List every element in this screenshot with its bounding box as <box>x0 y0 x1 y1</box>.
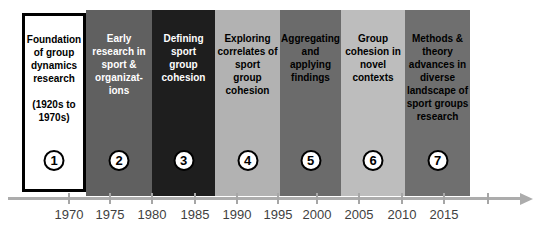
phase-number-badge: 1 <box>44 150 65 171</box>
axis-tick <box>277 193 279 204</box>
axis-tick <box>401 193 403 204</box>
phase-block-1: Foundation of group dynamics research (1… <box>22 13 86 192</box>
phase-number-badge: 5 <box>300 150 321 171</box>
axis-tick <box>487 193 489 204</box>
axis-tick <box>68 193 70 204</box>
axis-tick <box>109 193 111 204</box>
axis-tick <box>316 193 318 204</box>
phase-block-6: Group cohesion in novel contexts 6 <box>341 10 405 196</box>
axis-tick <box>443 193 445 204</box>
axis-tick <box>236 193 238 204</box>
axis-year-label: 1975 <box>88 207 132 222</box>
phase-number-badge: 3 <box>173 150 194 171</box>
phase-number-badge: 4 <box>237 150 258 171</box>
axis-tick <box>194 193 196 204</box>
phase-label: Exploring correlates of sport group cohe… <box>215 32 280 97</box>
axis-tick <box>358 193 360 204</box>
axis-year-label: 2005 <box>337 207 381 222</box>
phase-label: Foundation of group dynamics research (1… <box>25 33 83 124</box>
axis-year-label: 2015 <box>422 207 466 222</box>
phase-label: Early research in sport & organizat- ion… <box>86 32 152 97</box>
phase-label: Aggregating and applying findings <box>280 32 341 84</box>
phase-block-2: Early research in sport & organizat- ion… <box>86 10 152 196</box>
phase-number-badge: 7 <box>427 150 448 171</box>
axis-year-label: 2010 <box>380 207 424 222</box>
axis-year-label: 2000 <box>295 207 339 222</box>
axis-year-label: 1995 <box>256 207 300 222</box>
phase-block-4: Exploring correlates of sport group cohe… <box>215 10 280 196</box>
axis-year-label: 1985 <box>173 207 217 222</box>
timeline-diagram: Foundation of group dynamics research (1… <box>0 0 547 234</box>
axis-year-label: 1990 <box>215 207 259 222</box>
axis-year-label: 1970 <box>47 207 91 222</box>
phase-block-7: Methods & theory advances in diverse lan… <box>405 10 470 196</box>
phase-label: Methods & theory advances in diverse lan… <box>405 32 470 123</box>
axis-year-label: 1980 <box>130 207 174 222</box>
phase-label: Defining sport group cohesion <box>152 32 215 84</box>
phase-number-badge: 6 <box>363 150 384 171</box>
phase-block-3: Defining sport group cohesion 3 <box>152 10 215 196</box>
phase-block-5: Aggregating and applying findings 5 <box>280 10 341 196</box>
phase-label: Group cohesion in novel contexts <box>341 32 405 84</box>
phase-number-badge: 2 <box>109 150 130 171</box>
axis-tick <box>151 193 153 204</box>
axis-arrowhead-icon <box>520 193 533 205</box>
